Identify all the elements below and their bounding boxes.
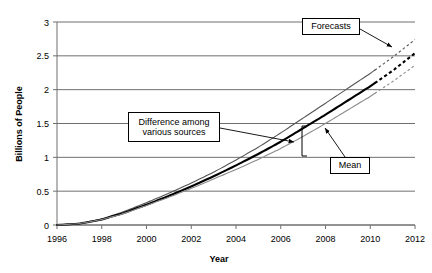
y-tick-label: 2.5: [36, 51, 49, 61]
callout-label: Forecasts: [311, 21, 351, 31]
x-axis-title: Year: [209, 254, 229, 264]
annotation-arrow-forecasts: [360, 29, 392, 47]
y-tick-label: 3: [44, 18, 49, 28]
x-tick-label: 2002: [181, 234, 201, 244]
data-series-group: [57, 40, 415, 225]
gridlines: [57, 22, 415, 225]
series-dashed-1: [375, 53, 415, 83]
x-tick-label: 2010: [360, 234, 380, 244]
x-tick-label: 2006: [271, 234, 291, 244]
callout-line-2: various sources: [142, 127, 205, 137]
callout-label: Mean: [339, 160, 362, 170]
y-tick-label: 1: [44, 153, 49, 163]
x-tick-label: 2008: [315, 234, 335, 244]
y-axis-title: Billions of People: [14, 86, 24, 162]
x-tick-label: 2012: [405, 234, 425, 244]
y-tick-label: 1.5: [36, 119, 49, 129]
x-axis-tick-labels: 199619982000200220042006200820102012: [47, 234, 425, 244]
y-axis-ticks: [53, 22, 57, 225]
x-axis-ticks: [57, 225, 415, 229]
annotation-arrows: [220, 29, 392, 157]
series-solid-0: [57, 70, 375, 225]
series-solid-1: [57, 83, 375, 225]
y-tick-label: 0.5: [36, 187, 49, 197]
y-axis-tick-labels: 00.511.522.53: [36, 18, 49, 231]
y-tick-label: 0: [44, 221, 49, 231]
callout-line-1: Difference among: [139, 117, 210, 127]
callout-difference-among-various-sources: Difference amongvarious sources: [128, 112, 220, 142]
series-dashed-0: [375, 40, 415, 71]
callout-forecasts: Forecasts: [302, 18, 360, 35]
annotation-arrow-mean: [325, 128, 345, 157]
x-tick-label: 2000: [136, 234, 156, 244]
x-tick-label: 1998: [92, 234, 112, 244]
x-tick-label: 1996: [47, 234, 67, 244]
x-tick-label: 2004: [226, 234, 246, 244]
callout-mean: Mean: [330, 157, 370, 174]
difference-bracket: [302, 126, 307, 156]
y-tick-label: 2: [44, 85, 49, 95]
population-forecast-chart: 00.511.522.53 19961998200020022004200620…: [0, 0, 432, 273]
annotation-arrow-difference-among-various-sources: [220, 128, 294, 142]
